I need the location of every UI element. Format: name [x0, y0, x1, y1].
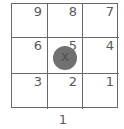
grid-cell-3[interactable]: 3 — [12, 74, 48, 109]
cell-number: 3 — [34, 75, 42, 89]
cell-number: 8 — [69, 5, 77, 19]
grid-cell-8[interactable]: 8 — [48, 4, 83, 38]
grid-cell-9[interactable]: 9 — [12, 4, 48, 38]
cell-number: 6 — [34, 39, 42, 53]
x-mark-icon: X — [53, 46, 77, 70]
position-marker: X — [53, 46, 77, 70]
cell-number: 4 — [106, 39, 114, 53]
grid-cell-6[interactable]: 6 — [12, 38, 48, 74]
cell-number: 2 — [69, 75, 77, 89]
cell-number: 7 — [106, 5, 114, 19]
cell-number: 1 — [106, 75, 114, 89]
grid-cell-2[interactable]: 2 — [48, 74, 83, 109]
grid-cell-4[interactable]: 4 — [83, 38, 119, 74]
grid-cell-7[interactable]: 7 — [83, 4, 119, 38]
cell-number: 9 — [34, 5, 42, 19]
grid-cell-1[interactable]: 1 — [83, 74, 119, 109]
bottom-label: 1 — [58, 113, 68, 127]
